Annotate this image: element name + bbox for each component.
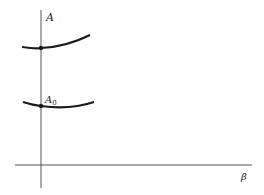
y-axis-label: A <box>45 11 54 24</box>
lower-curve <box>23 102 94 107</box>
upper-curve-point <box>39 46 43 50</box>
diagram: A A0 β <box>0 0 264 195</box>
lower-curve-label: A0 <box>44 94 57 107</box>
x-axis-label: β <box>240 171 247 182</box>
lower-curve-point <box>39 104 43 108</box>
upper-curve <box>22 35 90 48</box>
